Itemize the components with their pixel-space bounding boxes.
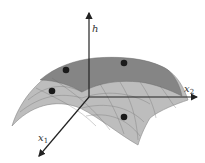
h-axis-label: h: [92, 23, 98, 34]
x1-axis-label: x1: [38, 132, 48, 145]
data-point: [49, 88, 56, 95]
data-point: [121, 114, 128, 121]
surface-diagram: h x2 x1: [0, 0, 205, 163]
x1-axis: [39, 97, 89, 156]
data-point: [121, 60, 128, 67]
data-point: [63, 67, 70, 74]
